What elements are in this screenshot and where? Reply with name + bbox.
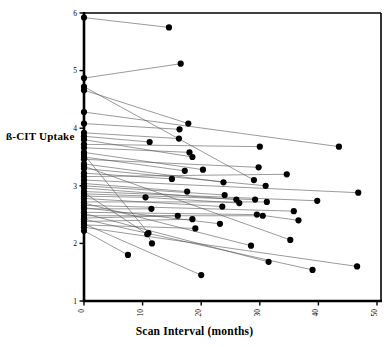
- data-point: [198, 272, 204, 278]
- data-point: [314, 198, 320, 204]
- data-point: [176, 135, 182, 141]
- x-tick-label: 20: [194, 309, 203, 317]
- data-point: [264, 199, 270, 205]
- data-point: [81, 200, 87, 206]
- data-point: [182, 168, 188, 174]
- data-point: [81, 15, 87, 21]
- data-point: [81, 163, 87, 169]
- connector-line: [84, 169, 266, 186]
- connector-line: [84, 188, 236, 200]
- connector-line: [84, 157, 185, 171]
- data-point: [309, 267, 315, 273]
- data-point: [145, 230, 151, 236]
- connector-line: [84, 227, 357, 266]
- connector-line: [84, 159, 259, 167]
- x-tick-label: 0: [77, 309, 86, 313]
- data-point: [148, 206, 154, 212]
- y-tick-label: 1: [73, 297, 77, 306]
- data-point: [81, 210, 87, 216]
- data-point: [142, 194, 148, 200]
- data-point: [354, 263, 360, 269]
- data-point: [295, 217, 301, 223]
- chart-figure: 12345601020304050 ß-CIT Uptake Scan Inte…: [0, 0, 389, 347]
- data-point: [251, 177, 257, 183]
- data-point: [263, 183, 269, 189]
- data-point: [184, 188, 190, 194]
- data-point: [257, 144, 263, 150]
- data-point: [81, 190, 87, 196]
- connector-line: [84, 90, 188, 123]
- scatter-plot: 12345601020304050: [0, 0, 389, 347]
- connector-line: [84, 219, 313, 270]
- connector-line: [84, 213, 269, 261]
- data-point: [81, 224, 87, 230]
- y-tick-label: 2: [73, 239, 77, 248]
- data-point: [186, 149, 192, 155]
- y-tick-label: 3: [73, 182, 77, 191]
- data-point: [355, 190, 361, 196]
- data-point: [248, 243, 254, 249]
- data-point: [284, 171, 290, 177]
- x-tick-label: 10: [136, 309, 145, 317]
- data-point: [222, 192, 228, 198]
- data-point: [219, 203, 225, 209]
- data-point: [336, 144, 342, 150]
- x-axis-title: Scan Interval (months): [0, 325, 389, 337]
- y-axis-title: ß-CIT Uptake: [6, 130, 75, 142]
- connector-line: [84, 205, 294, 211]
- data-point: [236, 200, 242, 206]
- x-axis: 01020304050: [77, 301, 382, 317]
- data-point: [192, 225, 198, 231]
- data-point: [185, 120, 191, 126]
- data-point: [254, 212, 260, 218]
- data-point: [176, 126, 182, 132]
- connector-line: [84, 152, 203, 169]
- data-point: [81, 109, 87, 115]
- data-point: [178, 61, 184, 67]
- y-tick-label: 5: [73, 66, 77, 75]
- data-point: [125, 252, 131, 258]
- data-point: [291, 208, 297, 214]
- data-point: [217, 221, 223, 227]
- data-point: [81, 75, 87, 81]
- connector-line: [84, 144, 260, 146]
- data-point: [81, 87, 87, 93]
- data-point: [260, 213, 266, 219]
- y-tick-label: 6: [73, 9, 77, 18]
- connector-line: [84, 18, 169, 28]
- data-point: [166, 24, 172, 30]
- x-tick-label: 50: [370, 309, 379, 317]
- data-point: [169, 176, 175, 182]
- data-point: [220, 179, 226, 185]
- x-tick-label: 40: [311, 309, 320, 317]
- connector-line: [84, 198, 222, 206]
- connector-line: [84, 231, 128, 255]
- data-point: [147, 139, 153, 145]
- data-point: [265, 259, 271, 265]
- data-point: [252, 197, 258, 203]
- connector-line: [84, 224, 201, 275]
- data-point: [81, 120, 87, 126]
- connector-line: [84, 112, 339, 147]
- connector-line: [84, 192, 317, 201]
- data-point: [256, 164, 262, 170]
- data-point: [287, 237, 293, 243]
- data-point: [189, 216, 195, 222]
- data-point: [200, 167, 206, 173]
- connector-line: [84, 64, 181, 78]
- series-connector-lines: [84, 18, 358, 275]
- x-tick-label: 30: [253, 309, 262, 317]
- connector-line: [84, 148, 189, 153]
- data-point: [81, 152, 87, 158]
- data-point: [175, 213, 181, 219]
- connector-line: [84, 174, 287, 176]
- connector-line: [84, 124, 180, 130]
- data-point: [149, 240, 155, 246]
